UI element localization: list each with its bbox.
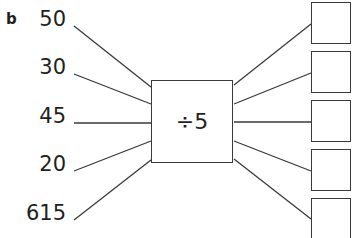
input-number-4: 20 bbox=[6, 154, 66, 175]
input-number-2: 30 bbox=[6, 57, 66, 78]
answer-box-5[interactable] bbox=[311, 198, 351, 238]
answer-box-2[interactable] bbox=[311, 51, 351, 93]
answer-box-3[interactable] bbox=[311, 100, 351, 142]
operation-label: ÷5 bbox=[176, 109, 208, 134]
operation-box: ÷5 bbox=[151, 80, 233, 163]
answer-box-1[interactable] bbox=[311, 2, 351, 44]
input-number-3: 45 bbox=[6, 106, 66, 127]
input-number-1: 50 bbox=[6, 9, 66, 30]
answer-box-4[interactable] bbox=[311, 149, 351, 191]
input-number-5: 615 bbox=[6, 203, 66, 224]
